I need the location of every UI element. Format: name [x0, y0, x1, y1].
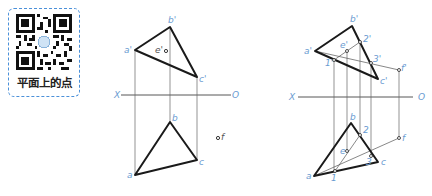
- label-right-e-prime: e': [340, 40, 348, 50]
- label-right-1: 1: [331, 173, 337, 183]
- right-axis-x-label: X: [288, 92, 296, 102]
- label-c: c: [199, 157, 204, 167]
- label-right-3-prime: 3': [373, 54, 381, 64]
- left-point-e-prime: [164, 49, 167, 52]
- right-point-2-prime: [359, 41, 362, 44]
- label-e-prime: e': [155, 45, 163, 55]
- label-right-b-prime: b': [350, 14, 358, 24]
- left-point-f: [216, 136, 219, 139]
- left-top-triangle: [135, 122, 197, 175]
- label-right-f: f: [402, 133, 407, 143]
- label-right-a-prime: a': [304, 46, 312, 56]
- label-a-prime: a': [124, 45, 132, 55]
- label-right-f-prime: f': [401, 63, 407, 73]
- label-right-b: b: [350, 112, 356, 122]
- right-axis-o-label: O: [418, 92, 425, 102]
- label-right-c: c: [381, 157, 386, 167]
- label-a: a: [127, 170, 133, 180]
- label-f: f: [221, 132, 226, 142]
- left-axis-o-label: O: [232, 90, 239, 100]
- left-axis-x-label: X: [113, 90, 121, 100]
- right-point-f: [398, 137, 401, 140]
- label-right-a: a: [306, 171, 312, 181]
- label-right-c-prime: c': [380, 76, 387, 86]
- right-figure: X O a' b' c' e' f' 1' 2' 3' a b c e f 1 …: [288, 14, 425, 183]
- label-c-prime: c': [199, 74, 206, 84]
- label-right-2-prime: 2': [363, 34, 371, 44]
- projection-diagrams: X O a' b' c' e' a b c f: [0, 0, 432, 196]
- label-right-1-prime: 1': [325, 58, 333, 68]
- label-b: b: [172, 113, 178, 123]
- right-point-2: [359, 134, 362, 137]
- label-right-e: e: [340, 146, 346, 156]
- left-figure: X O a' b' c' e' a b c f: [113, 15, 239, 180]
- right-point-e: [346, 150, 349, 153]
- label-right-2: 2: [363, 125, 369, 135]
- label-b-prime: b': [168, 15, 176, 25]
- label-right-3: 3: [366, 157, 372, 167]
